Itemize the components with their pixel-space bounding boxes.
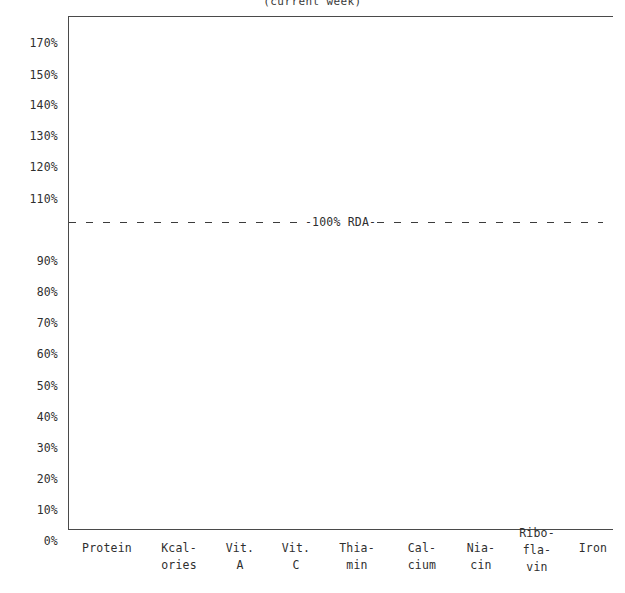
y-tick-30: 30% — [0, 441, 58, 455]
x-cat-calcium-line-2: cium — [390, 557, 454, 574]
x-cat-riboflavin-line-1: Ribo- — [508, 525, 566, 542]
y-tick-20: 20% — [0, 472, 58, 486]
y-tick-70: 70% — [0, 316, 58, 330]
x-cat-riboflavin: Ribo- fla- vin — [508, 525, 566, 576]
rda-dash-left — [69, 222, 304, 224]
x-cat-niacin-line-2: cin — [452, 557, 510, 574]
y-tick-150: 150% — [0, 68, 58, 82]
x-cat-protein: Protein — [67, 540, 147, 557]
y-tick-170: 170% — [0, 36, 58, 50]
y-tick-50: 50% — [0, 379, 58, 393]
x-cat-vit-c-line-1: Vit. — [268, 540, 324, 557]
x-cat-kcalories: Kcal- ories — [146, 540, 212, 574]
y-tick-80: 80% — [0, 285, 58, 299]
y-axis-tick-labels: 170% 150% 140% 130% 120% 110% 90% 80% 70… — [0, 0, 60, 593]
x-cat-vit-a: Vit. A — [212, 540, 268, 574]
y-tick-90: 90% — [0, 254, 58, 268]
chart-subtitle: (current week) — [0, 0, 625, 8]
x-cat-thiamin-line-1: Thia- — [324, 540, 390, 557]
x-cat-niacin: Nia- cin — [452, 540, 510, 574]
plot-area — [68, 16, 613, 530]
rda-reference-label: -100% RDA- — [304, 217, 377, 229]
x-cat-calcium: Cal- cium — [390, 540, 454, 574]
rda-dash-right — [377, 222, 603, 224]
x-cat-vit-a-line-1: Vit. — [212, 540, 268, 557]
x-cat-thiamin-line-2: min — [324, 557, 390, 574]
y-tick-110: 110% — [0, 192, 58, 206]
x-axis-category-labels: Protein Kcal- ories Vit. A Vit. C Thia- … — [0, 534, 625, 593]
y-tick-40: 40% — [0, 410, 58, 424]
x-cat-calcium-line-1: Cal- — [390, 540, 454, 557]
bar-series-area — [69, 17, 613, 529]
x-cat-riboflavin-line-3: vin — [508, 559, 566, 576]
y-tick-10: 10% — [0, 503, 58, 517]
x-cat-iron-line-1: Iron — [564, 540, 622, 557]
rda-reference-line: -100% RDA- — [69, 217, 618, 228]
x-cat-thiamin: Thia- min — [324, 540, 390, 574]
x-cat-vit-c: Vit. C — [268, 540, 324, 574]
x-cat-kcalories-line-1: Kcal- — [146, 540, 212, 557]
y-tick-130: 130% — [0, 129, 58, 143]
x-cat-riboflavin-line-2: fla- — [508, 542, 566, 559]
x-cat-vit-c-line-2: C — [268, 557, 324, 574]
x-cat-kcalories-line-2: ories — [146, 557, 212, 574]
y-tick-120: 120% — [0, 160, 58, 174]
y-tick-60: 60% — [0, 347, 58, 361]
x-cat-protein-line-1: Protein — [67, 540, 147, 557]
x-cat-niacin-line-1: Nia- — [452, 540, 510, 557]
x-cat-vit-a-line-2: A — [212, 557, 268, 574]
y-tick-140: 140% — [0, 98, 58, 112]
x-cat-iron: Iron — [564, 540, 622, 557]
